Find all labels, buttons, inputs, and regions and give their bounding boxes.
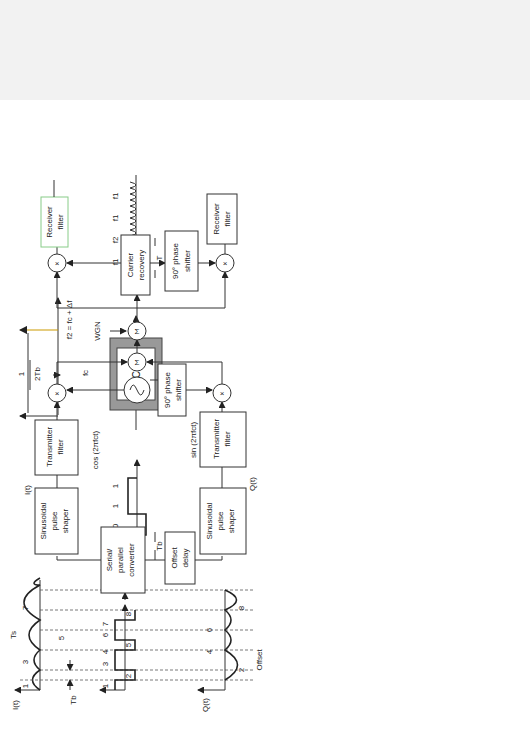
svg-text:2: 2 — [124, 673, 133, 678]
page-bleed — [0, 0, 530, 100]
svg-text:4: 4 — [101, 649, 110, 654]
svg-text:Offset: Offset — [255, 649, 264, 671]
svg-text:7: 7 — [101, 621, 110, 626]
svg-text:Carrier: Carrier — [126, 252, 135, 277]
svg-text:filter: filter — [223, 211, 232, 226]
svg-text:Sinusoidal: Sinusoidal — [39, 502, 48, 539]
svg-text:Ts: Ts — [9, 631, 18, 639]
svg-text:Transmitter: Transmitter — [212, 419, 221, 459]
svg-text:×: × — [223, 259, 228, 268]
part-b: I(t) 1 3 5 7 Ts Tb 1 2 3 4 — [9, 180, 264, 712]
svg-text:1: 1 — [111, 483, 120, 488]
svg-text:shaper: shaper — [227, 508, 236, 533]
msk-modem-diagram: 1 0 1 1 Tb 1 2Tb f1 = fc − Δf fc f2 = fc… — [0, 0, 530, 738]
svg-text:Tb: Tb — [69, 695, 78, 705]
svg-text:2: 2 — [237, 667, 246, 672]
svg-text:5: 5 — [124, 642, 133, 647]
svg-text:1: 1 — [21, 683, 30, 688]
svg-text:shaper: shaper — [61, 508, 70, 533]
svg-text:fc: fc — [81, 370, 90, 376]
svg-text:8: 8 — [124, 611, 133, 616]
svg-text:1: 1 — [101, 683, 110, 688]
svg-text:4: 4 — [205, 649, 214, 654]
svg-text:×: × — [55, 259, 60, 268]
svg-text:shifter: shifter — [183, 250, 192, 272]
svg-text:2Tb: 2Tb — [33, 367, 42, 381]
svg-text:f1: f1 — [111, 258, 120, 265]
svg-text:90° phase: 90° phase — [171, 242, 180, 279]
svg-text:Q(t): Q(t) — [201, 698, 210, 712]
svg-text:pulse: pulse — [50, 511, 59, 531]
rx-phase-shifter — [165, 231, 198, 291]
svg-text:Offset: Offset — [170, 547, 179, 569]
svg-text:Receiver: Receiver — [45, 206, 54, 238]
svg-text:×: × — [55, 389, 60, 398]
svg-text:×: × — [220, 389, 225, 398]
svg-text:Sinusoidal: Sinusoidal — [205, 502, 214, 539]
receiver: Carrier recovery × × 90° phase shifter R… — [41, 180, 237, 308]
svg-text:f2: f2 — [111, 236, 120, 243]
svg-text:delay: delay — [181, 548, 190, 567]
svg-text:cos (2πfct): cos (2πfct) — [91, 430, 100, 469]
svg-text:8: 8 — [237, 605, 246, 610]
svg-text:shifter: shifter — [174, 379, 183, 401]
svg-text:f1: f1 — [111, 214, 120, 221]
svg-text:3: 3 — [21, 659, 30, 664]
svg-text:5: 5 — [57, 635, 66, 640]
svg-text:I(t): I(t) — [11, 700, 20, 710]
svg-text:parallel: parallel — [116, 547, 125, 573]
svg-text:f2 = fc + Δf: f2 = fc + Δf — [65, 300, 74, 339]
svg-text:90° phase: 90° phase — [163, 371, 172, 408]
svg-text:Q(t): Q(t) — [248, 477, 257, 491]
svg-text:6: 6 — [101, 632, 110, 637]
svg-text:Receiver: Receiver — [212, 203, 221, 235]
svg-text:Σ: Σ — [135, 327, 140, 336]
svg-text:converter: converter — [127, 543, 136, 577]
svg-text:filter: filter — [223, 431, 232, 446]
svg-text:Transmitter: Transmitter — [45, 427, 54, 467]
svg-text:f1: f1 — [111, 192, 120, 199]
svg-text:7: 7 — [21, 605, 30, 610]
svg-text:6: 6 — [205, 627, 214, 632]
svg-text:WGN: WGN — [93, 321, 102, 341]
svg-text:T: T — [155, 255, 164, 260]
svg-text:Serial/: Serial/ — [105, 548, 114, 571]
svg-text:I(t): I(t) — [23, 485, 32, 495]
input-waveforms: I(t) 1 3 5 7 Ts Tb 1 2 3 4 — [9, 578, 264, 712]
svg-text:pulse: pulse — [216, 511, 225, 531]
svg-text:Σ: Σ — [135, 358, 140, 367]
svg-text:recovery: recovery — [137, 250, 146, 281]
svg-text:3: 3 — [101, 661, 110, 666]
svg-text:1: 1 — [17, 371, 26, 376]
svg-text:Tb: Tb — [155, 541, 164, 551]
svg-text:sin (2πfct): sin (2πfct) — [189, 422, 198, 459]
svg-text:1: 1 — [111, 503, 120, 508]
svg-text:filter: filter — [56, 439, 65, 454]
svg-text:filter: filter — [56, 214, 65, 229]
